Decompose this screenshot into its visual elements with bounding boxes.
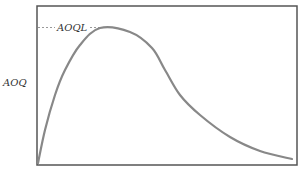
aoq-chart: AOQL AOQ <box>0 0 302 177</box>
aoql-label: AOQL <box>55 22 89 33</box>
y-axis-label: AOQ <box>3 77 27 88</box>
aoq-curve <box>38 27 292 163</box>
chart-canvas <box>0 0 302 177</box>
